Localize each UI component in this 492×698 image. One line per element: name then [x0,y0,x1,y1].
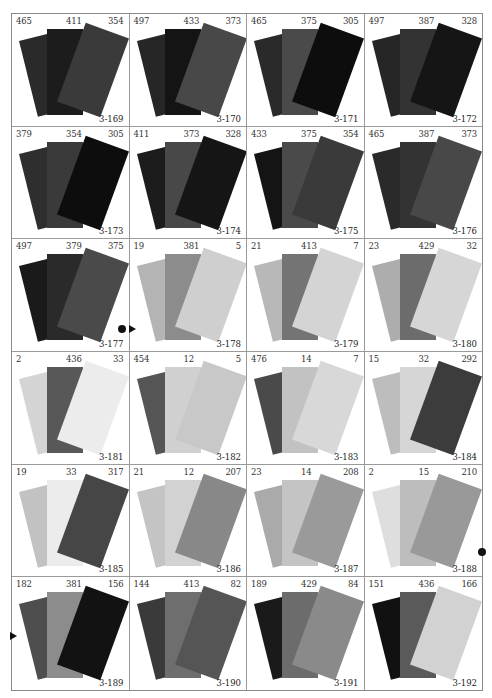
color-number-label: 328 [461,16,477,26]
swatch-cell: 21122073-186 [130,465,248,578]
pointer-triangle-icon [129,325,136,333]
swatch-cell: 144413823-190 [130,577,248,690]
color-number-label: 5 [236,241,241,251]
swatch-cell: 4654113543-169 [12,14,130,127]
swatch-cell: 189429843-191 [247,577,365,690]
color-number-label: 387 [419,129,435,139]
swatch-cell: 1823811563-189 [12,577,130,690]
swatch-grid: 4654113543-1694974333733-1704653753053-1… [11,13,483,691]
color-number-label: 2 [369,467,374,477]
color-number-label: 454 [134,354,150,364]
swatch-code: 3-173 [99,226,124,236]
color-number-label: 15 [419,467,429,477]
color-number-label: 497 [16,241,32,251]
color-number-label: 21 [251,241,261,251]
color-number-label: 465 [251,16,267,26]
swatch-cell: 4653753053-171 [247,14,365,127]
swatch-code: 3-191 [334,678,359,688]
color-number-label: 7 [353,354,358,364]
color-number-label: 19 [134,241,144,251]
color-number-label: 375 [108,241,124,251]
color-number-label: 354 [66,129,82,139]
color-number-label: 381 [66,579,82,589]
color-number-label: 32 [467,241,477,251]
color-number-label: 411 [134,129,150,139]
color-number-label: 208 [343,467,359,477]
swatch-cell: 1514361663-192 [365,577,483,690]
swatch-cell: 4653873733-176 [365,127,483,240]
color-number-label: 207 [225,467,241,477]
color-number-label: 317 [108,467,124,477]
color-number-label: 5 [236,354,241,364]
swatch-cell: 23142083-187 [247,465,365,578]
color-number-label: 33 [66,467,76,477]
swatch-code: 3-184 [452,452,477,462]
swatch-code: 3-179 [334,339,359,349]
color-number-label: 7 [353,241,358,251]
swatch-cell: 4973793753-177 [12,239,130,352]
swatch-code: 3-177 [99,339,124,349]
color-number-label: 19 [16,467,26,477]
color-number-label: 328 [225,129,241,139]
color-number-label: 497 [369,16,385,26]
color-number-label: 465 [16,16,32,26]
color-number-label: 476 [251,354,267,364]
color-number-label: 33 [113,354,123,364]
color-number-label: 373 [461,129,477,139]
color-number-label: 12 [184,354,194,364]
swatch-cell: 2141373-179 [247,239,365,352]
swatch-code: 3-183 [334,452,359,462]
color-number-label: 144 [134,579,150,589]
color-number-label: 21 [134,467,144,477]
swatch-code: 3-169 [99,114,124,124]
color-number-label: 436 [419,579,435,589]
bullet-dot-icon [478,548,486,556]
color-number-label: 354 [343,129,359,139]
swatch-code: 3-186 [216,564,241,574]
color-number-label: 379 [66,241,82,251]
color-number-label: 433 [184,16,200,26]
swatch-cell: 2152103-188 [365,465,483,578]
color-number-label: 210 [461,467,477,477]
swatch-code: 3-185 [99,564,124,574]
swatch-code: 3-174 [216,226,241,236]
swatch-code: 3-170 [216,114,241,124]
color-number-label: 429 [301,579,317,589]
color-number-label: 12 [184,467,194,477]
swatch-cell: 19333173-185 [12,465,130,578]
bullet-dot-icon [118,325,126,333]
color-number-label: 373 [225,16,241,26]
swatch-cell: 15322923-184 [365,352,483,465]
color-number-label: 15 [369,354,379,364]
color-number-label: 14 [301,467,311,477]
color-number-label: 84 [348,579,358,589]
swatch-code: 3-192 [452,678,477,688]
color-number-label: 429 [419,241,435,251]
color-number-label: 292 [461,354,477,364]
color-number-label: 151 [369,579,385,589]
color-number-label: 413 [184,579,200,589]
swatch-cell: 3793543053-173 [12,127,130,240]
color-number-label: 375 [301,16,317,26]
swatch-code: 3-172 [452,114,477,124]
swatch-cell: 4761473-183 [247,352,365,465]
swatch-code: 3-175 [334,226,359,236]
swatch-code: 3-189 [99,678,124,688]
color-number-label: 305 [108,129,124,139]
color-number-label: 433 [251,129,267,139]
swatch-code: 3-178 [216,339,241,349]
color-number-label: 411 [66,16,82,26]
swatch-code: 3-190 [216,678,241,688]
swatch-cell: 4973873283-172 [365,14,483,127]
color-number-label: 436 [66,354,82,364]
swatch-code: 3-187 [334,564,359,574]
color-number-label: 354 [108,16,124,26]
color-number-label: 379 [16,129,32,139]
swatch-cell: 23429323-180 [365,239,483,352]
pointer-triangle-icon [10,632,17,640]
swatch-code: 3-171 [334,114,359,124]
swatch-code: 3-176 [452,226,477,236]
swatch-code: 3-188 [452,564,477,574]
swatch-cell: 1938153-178 [130,239,248,352]
color-number-label: 387 [419,16,435,26]
